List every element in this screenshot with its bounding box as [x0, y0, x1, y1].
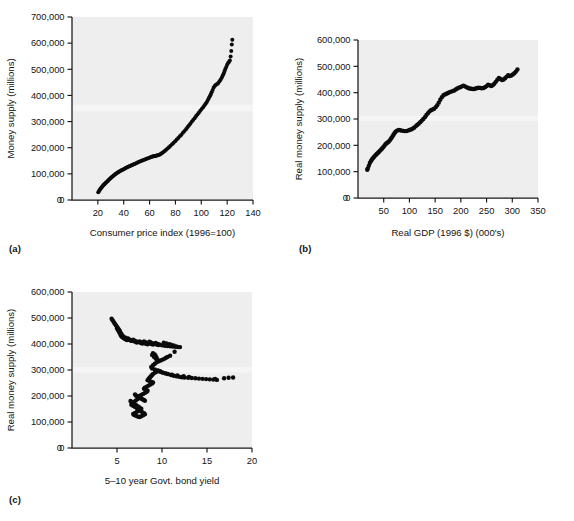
data-point — [230, 42, 234, 46]
x-axis-title: 5–10 year Govt. bond yield — [105, 475, 220, 486]
data-point — [230, 38, 234, 42]
chart-b-svg: 0100,000200,000300,000400,000500,000600,… — [290, 0, 574, 240]
data-point — [515, 67, 519, 71]
y-tick-label: 600,000 — [31, 38, 65, 48]
y-tick-label: 400,000 — [31, 91, 65, 101]
y-axis-title: Money supply (millions) — [5, 58, 16, 158]
y-tick-label: 400,000 — [317, 88, 351, 98]
x-tick-label: 50 — [379, 206, 389, 216]
y-tick-label: 100,000 — [31, 417, 65, 427]
x-tick-label: 100 — [402, 206, 418, 216]
data-point — [222, 376, 226, 380]
panel-a-money-supply-vs-cpi: 0100,000200,000300,000400,000500,000600,… — [0, 0, 290, 262]
x-tick-label: 40 — [119, 208, 129, 218]
y-tick-label: 200,000 — [317, 141, 351, 151]
data-point — [187, 375, 191, 379]
x-tick-label: 250 — [479, 206, 495, 216]
data-point — [231, 375, 235, 379]
x-tick-label: 0 — [57, 443, 62, 453]
x-tick-label: 100 — [194, 208, 210, 218]
x-tick-label: 120 — [219, 208, 235, 218]
y-tick-label: 300,000 — [317, 114, 351, 124]
data-point — [162, 341, 166, 345]
y-axis-title: Real money supply (millions) — [5, 309, 16, 432]
y-tick-label: 500,000 — [317, 62, 351, 72]
x-tick-label: 140 — [245, 208, 261, 218]
x-tick-label: 20 — [93, 208, 103, 218]
y-axis-title: Real money supply (millions) — [293, 58, 304, 181]
panel-b-real-money-supply-vs-real-gdp: 0100,000200,000300,000400,000500,000600,… — [290, 0, 574, 262]
x-tick-label: 0 — [343, 193, 348, 203]
x-tick-label: 0 — [57, 195, 62, 205]
chart-c-svg: 0100,000200,000300,000400,000500,000600,… — [0, 262, 290, 492]
y-tick-label: 300,000 — [31, 365, 65, 375]
x-tick-label: 5 — [114, 456, 119, 466]
figure-money-supply-scatterplots: 0100,000200,000300,000400,000500,000600,… — [0, 0, 574, 521]
data-point — [181, 374, 185, 378]
x-tick-label: 350 — [530, 206, 546, 216]
y-tick-label: 500,000 — [31, 65, 65, 75]
x-tick-label: 15 — [202, 456, 212, 466]
y-tick-label: 400,000 — [31, 339, 65, 349]
x-tick-label: 300 — [505, 206, 521, 216]
data-point — [213, 377, 217, 381]
x-tick-label: 200 — [453, 206, 469, 216]
y-tick-label: 100,000 — [317, 167, 351, 177]
y-tick-label: 600,000 — [317, 35, 351, 45]
data-point — [229, 49, 233, 53]
data-point — [138, 409, 142, 413]
x-tick-label: 10 — [157, 456, 167, 466]
y-tick-label: 200,000 — [31, 391, 65, 401]
panel-label-b: (b) — [299, 243, 311, 254]
y-tick-label: 100,000 — [31, 169, 65, 179]
y-tick-label: 300,000 — [31, 117, 65, 127]
chart-a-svg: 0100,000200,000300,000400,000500,000600,… — [0, 0, 290, 240]
panel-label-c: (c) — [9, 494, 21, 505]
data-point — [175, 373, 179, 377]
panel-label-a: (a) — [9, 243, 21, 254]
x-axis-title: Real GDP (1996 $) (000's) — [391, 227, 504, 238]
y-tick-label: 700,000 — [31, 12, 65, 22]
x-tick-label: 60 — [144, 208, 154, 218]
data-point — [226, 376, 230, 380]
x-tick-label: 20 — [247, 456, 257, 466]
x-axis-title: Consumer price index (1996=100) — [90, 227, 235, 238]
data-point — [178, 345, 182, 349]
y-tick-label: 600,000 — [31, 287, 65, 297]
data-point — [172, 350, 176, 354]
plot-background-band — [358, 116, 538, 122]
panel-c-real-money-supply-vs-bond-yield: 0100,000200,000300,000400,000500,000600,… — [0, 262, 290, 521]
x-tick-label: 80 — [170, 208, 180, 218]
x-tick-label: 150 — [427, 206, 443, 216]
data-point — [170, 372, 174, 376]
data-point — [229, 54, 233, 58]
plot-background-band — [72, 105, 253, 111]
y-tick-label: 200,000 — [31, 143, 65, 153]
y-tick-label: 500,000 — [31, 313, 65, 323]
data-point — [228, 58, 232, 62]
